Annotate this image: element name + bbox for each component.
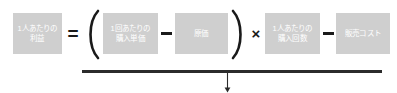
formula-diagram: 1人あたりの 利益 = 1回あたりの 購入単価 原価 × 1人あたりの 購入回数… xyxy=(0,0,397,93)
open-paren-icon xyxy=(82,9,101,60)
term-label-line1: 1回あたりの xyxy=(111,24,151,34)
term-label-line1: 1人あたりの xyxy=(273,24,313,34)
term-label-line1: 1人あたりの xyxy=(18,24,58,34)
minus-operator-outer xyxy=(323,32,334,35)
term-box-purchase-count-per-person: 1人あたりの 購入回数 xyxy=(265,13,320,54)
term-label-line2: 購入単価 xyxy=(116,34,144,44)
term-box-selling-cost: 販売コスト xyxy=(336,13,390,54)
minus-operator-inner xyxy=(161,32,172,35)
term-label-line2: 購入回数 xyxy=(278,34,306,44)
close-paren-icon xyxy=(230,9,249,60)
term-box-profit-per-person: 1人あたりの 利益 xyxy=(13,13,62,54)
term-box-cost-price: 原価 xyxy=(175,13,228,54)
term-box-unit-price-per-purchase: 1回あたりの 購入単価 xyxy=(103,13,158,54)
term-label-line1: 原価 xyxy=(194,29,208,39)
term-label-line1: 販売コスト xyxy=(345,29,381,39)
multiply-operator: × xyxy=(249,25,263,41)
flow-arrow-down-icon xyxy=(222,72,233,93)
equals-operator: = xyxy=(65,24,81,42)
term-label-line2: 利益 xyxy=(30,34,44,44)
